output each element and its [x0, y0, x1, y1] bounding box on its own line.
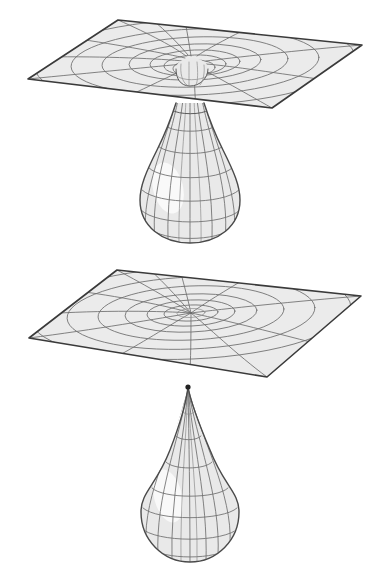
embedding-diagram-svg: [0, 0, 387, 578]
bottom-plane-group: [29, 260, 361, 377]
cusp-point-marker: [185, 384, 190, 389]
top-plane-group: [28, 13, 362, 111]
bottom-body-group: [141, 384, 239, 564]
top-body-group: [140, 100, 240, 246]
figure-root: Wormhole throat and cusp embedding diagr…: [0, 0, 387, 578]
panel-top: [28, 13, 362, 246]
panel-bottom: [29, 260, 361, 564]
